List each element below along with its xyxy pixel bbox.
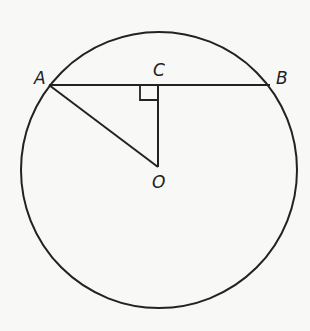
label-C: C <box>153 60 165 80</box>
label-A: A <box>33 68 46 88</box>
segment-AO <box>49 85 158 167</box>
label-B: B <box>276 68 288 88</box>
diagram-svg: A C B O <box>0 0 310 331</box>
right-angle-marker <box>140 85 157 100</box>
geometry-diagram: A C B O <box>0 0 310 331</box>
label-O: O <box>152 172 165 192</box>
